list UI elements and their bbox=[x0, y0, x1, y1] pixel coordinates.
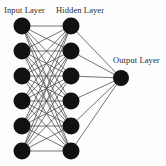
hidden-node bbox=[63, 43, 80, 60]
input-node bbox=[14, 118, 31, 135]
edges-input-to-hidden bbox=[22, 26, 71, 151]
neural-network-diagram: Input Layer Hidden Layer Output Layer bbox=[0, 0, 166, 166]
output-layer-label: Output Layer bbox=[113, 56, 160, 65]
hidden-node bbox=[63, 143, 80, 160]
hidden-node bbox=[63, 68, 80, 85]
input-layer-label: Input Layer bbox=[4, 6, 45, 15]
input-node bbox=[14, 68, 31, 85]
input-node bbox=[14, 43, 31, 60]
hidden-node bbox=[63, 93, 80, 110]
input-node bbox=[14, 18, 31, 35]
network-graph-canvas bbox=[0, 0, 166, 166]
output-layer-nodes bbox=[113, 70, 129, 86]
connection-edge bbox=[71, 78, 121, 151]
edges-hidden-to-output bbox=[71, 26, 121, 151]
output-node bbox=[113, 70, 129, 86]
input-node bbox=[14, 93, 31, 110]
hidden-layer-label: Hidden Layer bbox=[56, 6, 104, 15]
hidden-node bbox=[63, 18, 80, 35]
hidden-node bbox=[63, 118, 80, 135]
input-node bbox=[14, 143, 31, 160]
